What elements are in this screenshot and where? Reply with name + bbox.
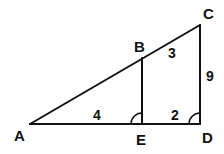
point-label-e: E [136,131,146,148]
length-label-ed: 2 [171,107,179,123]
point-label-a: A [14,127,25,144]
point-label-c: C [203,5,214,22]
angle-mark-e [131,113,142,124]
angle-mark-d [189,113,200,124]
point-label-d: D [202,129,213,146]
length-label-cd: 9 [206,68,214,84]
length-label-bc: 3 [168,45,176,61]
length-label-ae: 4 [93,107,101,123]
similar-triangles-diagram: A B C D E 4 2 3 9 [0,0,224,154]
point-label-b: B [134,38,145,55]
